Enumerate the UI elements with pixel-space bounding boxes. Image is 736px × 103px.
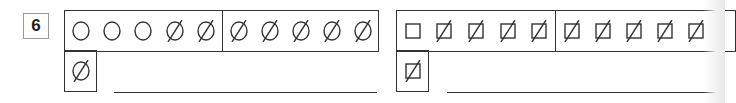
crossed-circle-icon — [352, 20, 374, 42]
crossed-square-icon — [402, 60, 424, 82]
crossed-square-icon — [433, 20, 455, 42]
page-edge-shadow — [703, 0, 725, 103]
right-tally-box — [396, 10, 736, 52]
crossed-circle-icon — [228, 20, 250, 42]
crossed-circle-icon — [164, 20, 186, 42]
crossed-square-icon — [465, 20, 487, 42]
crossed-square-icon — [623, 20, 645, 42]
left-answer-line[interactable] — [114, 92, 377, 93]
right-answer-line[interactable] — [447, 92, 717, 93]
crossed-circle-icon — [259, 20, 281, 42]
question-number-label: 6 — [23, 13, 49, 39]
crossed-circle-icon — [321, 20, 343, 42]
empty-circle-icon — [132, 20, 154, 42]
right-group-1 — [397, 11, 555, 51]
left-tally-box — [64, 10, 379, 52]
right-extra-box — [396, 50, 429, 92]
empty-square-icon — [402, 20, 424, 42]
empty-circle-icon — [70, 20, 92, 42]
crossed-square-icon — [654, 20, 676, 42]
left-extra-box — [64, 50, 97, 92]
crossed-square-icon — [528, 20, 550, 42]
right-group-2 — [555, 11, 711, 51]
crossed-square-icon — [561, 20, 583, 42]
empty-circle-icon — [101, 20, 123, 42]
crossed-circle-icon — [70, 60, 92, 82]
crossed-circle-icon — [195, 20, 217, 42]
left-group-2 — [222, 11, 378, 51]
crossed-square-icon — [592, 20, 614, 42]
crossed-square-icon — [497, 20, 519, 42]
crossed-circle-icon — [290, 20, 312, 42]
left-group-1 — [65, 11, 222, 51]
